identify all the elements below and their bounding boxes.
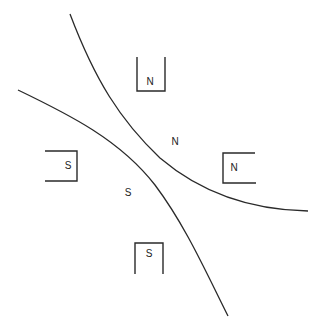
right-magnet-outline: [223, 153, 256, 183]
right-magnet-label: N: [230, 162, 237, 173]
top-magnet-label: N: [146, 76, 153, 87]
left-magnet-label: S: [65, 160, 72, 171]
left-magnet-outline: [45, 151, 77, 181]
bottom-magnet-label: S: [146, 248, 153, 259]
top-magnet: N: [137, 57, 165, 91]
south-region-label: S: [125, 187, 132, 198]
lower-left-field-line: [18, 90, 228, 316]
right-magnet: N: [223, 153, 256, 183]
upper-right-field-line: [70, 14, 308, 211]
left-magnet: S: [45, 151, 77, 181]
north-region-label: N: [171, 136, 178, 147]
bottom-magnet: S: [135, 243, 163, 274]
quadrupole-field-diagram: N N S S N S: [0, 0, 322, 332]
diagram-svg: N N S S N S: [0, 0, 322, 332]
